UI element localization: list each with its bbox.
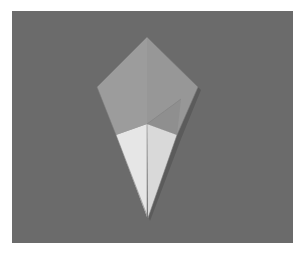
- kite-lower-right-panel: [147, 124, 177, 218]
- kite-upper-left-panel: [97, 37, 147, 135]
- image-frame: Folded paper origami kite base on a gray…: [0, 0, 302, 256]
- origami-kite: [0, 0, 302, 256]
